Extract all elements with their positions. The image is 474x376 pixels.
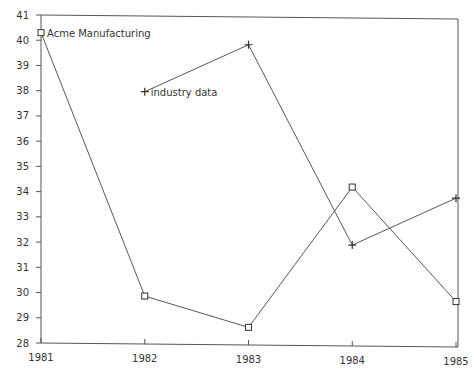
x-axis: 19811982198319841985 (28, 338, 468, 367)
square-marker-icon (38, 30, 44, 36)
x-tick-label: 1981 (28, 352, 53, 363)
plus-marker-icon (141, 88, 149, 96)
x-tick-label: 1983 (236, 354, 261, 365)
line-chart: 2829303132333435363738394041 19811982198… (0, 0, 474, 376)
square-marker-icon (349, 184, 355, 190)
y-tick-label: 29 (16, 312, 29, 323)
plus-marker-icon (245, 41, 253, 49)
plus-marker-icon (348, 241, 356, 249)
y-tick-label: 28 (16, 338, 29, 349)
y-axis: 2829303132333435363738394041 (16, 10, 41, 349)
y-tick-label: 41 (16, 10, 29, 21)
y-tick-label: 34 (16, 186, 29, 197)
square-marker-icon (246, 324, 252, 330)
square-marker-icon (142, 293, 148, 299)
y-tick-label: 36 (16, 136, 29, 147)
square-marker-icon (453, 299, 459, 305)
y-tick-label: 30 (16, 287, 29, 298)
y-tick-label: 35 (16, 161, 29, 172)
plus-marker-icon (452, 194, 460, 202)
series-label: industry data (151, 87, 218, 98)
y-tick-label: 32 (16, 237, 29, 248)
y-tick-label: 38 (16, 85, 29, 96)
frame-top (41, 15, 458, 19)
x-tick-label: 1985 (443, 356, 468, 367)
y-tick-label: 33 (16, 211, 29, 222)
series-label: Acme Manufacturing (47, 28, 151, 39)
series-layer: Acme Manufacturingindustry data (38, 28, 460, 331)
series-line (41, 33, 456, 328)
y-tick-label: 31 (16, 262, 29, 273)
x-tick-label: 1982 (132, 353, 157, 364)
y-tick-label: 39 (16, 60, 29, 71)
x-tick-label: 1984 (340, 355, 365, 366)
series-acme-manufacturing: Acme Manufacturing (38, 28, 459, 331)
x-axis-line (41, 343, 458, 347)
plot-frame (41, 15, 458, 347)
y-tick-label: 40 (16, 35, 29, 46)
y-tick-label: 37 (16, 110, 29, 121)
series-industry-data: industry data (141, 41, 460, 249)
series-line (145, 45, 456, 245)
